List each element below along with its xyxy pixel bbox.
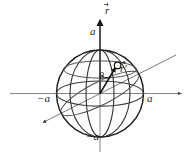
position-vector-r-prime-label: r' [120,60,127,74]
depth-axis [43,55,176,123]
position-vector-r-prime-text: r' [120,63,127,74]
axis-vector-r-text: r [105,5,109,16]
radius-label-bottom: −a [86,131,99,142]
radius-label-top: a [90,26,96,37]
polar-angle-label: θ [99,71,104,81]
radius-label-left: −a [37,93,50,104]
sphere-diagram-figure: r r' a a −a −a θ [0,0,195,157]
axis-vector-r-label: r [105,2,109,16]
radius-label-right: a [147,93,153,104]
